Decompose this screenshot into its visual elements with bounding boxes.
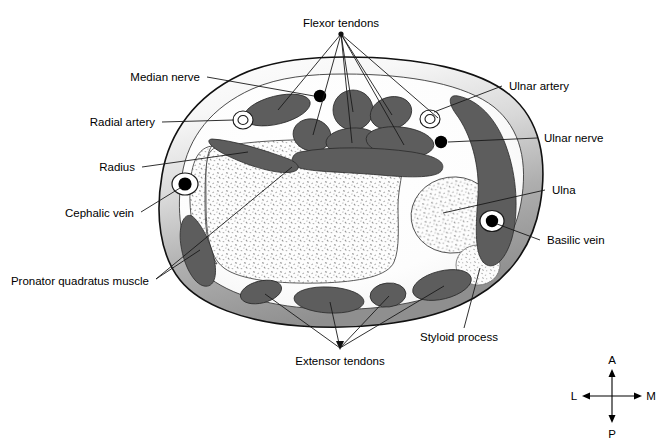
label-radius: Radius: [99, 161, 135, 173]
label-basilic-vein: Basilic vein: [547, 234, 605, 246]
compass-label-lateral: L: [571, 390, 578, 402]
label-radial-artery: Radial artery: [90, 116, 155, 128]
leader-apex-flexor: [338, 31, 343, 36]
compass-arrow-anterior-icon: [609, 369, 616, 377]
label-cephalic-vein: Cephalic vein: [65, 207, 134, 219]
compass-arrow-medial-icon: [634, 393, 642, 400]
compass-label-medial: M: [646, 390, 656, 402]
diagram-canvas: Flexor tendons Median nerve Radial arter…: [0, 0, 666, 447]
ulnar-artery[interactable]: [420, 110, 440, 128]
compass-label-anterior: A: [608, 354, 616, 366]
compass-arrow-posterior-icon: [609, 415, 616, 423]
label-styloid-process: Styloid process: [420, 331, 498, 343]
label-ulna: Ulna: [552, 184, 576, 196]
cephalic-vein[interactable]: [172, 173, 198, 195]
compass-arrow-lateral-icon: [582, 393, 590, 400]
label-flexor-tendons: Flexor tendons: [303, 17, 379, 29]
radial-artery[interactable]: [233, 111, 253, 129]
label-extensor-tendons: Extensor tendons: [295, 355, 385, 367]
label-ulnar-artery: Ulnar artery: [509, 80, 569, 92]
compass-label-posterior: P: [608, 428, 616, 440]
orientation-compass: A P L M: [571, 354, 656, 440]
label-median-nerve: Median nerve: [130, 71, 200, 83]
basilic-vein[interactable]: [480, 211, 504, 232]
label-ulnar-nerve: Ulnar nerve: [544, 132, 603, 144]
ulnar-nerve[interactable]: [435, 136, 447, 148]
label-pronator-quadratus-muscle: Pronator quadratus muscle: [11, 275, 149, 287]
wrist-cross-section-figure: Flexor tendons Median nerve Radial arter…: [0, 0, 666, 447]
median-nerve[interactable]: [314, 90, 326, 102]
